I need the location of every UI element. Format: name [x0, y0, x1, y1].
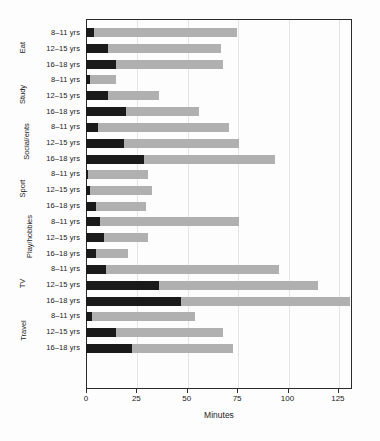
bar-row	[86, 170, 352, 179]
x-tick-mark	[237, 389, 238, 393]
bar-segment-dark	[86, 139, 124, 148]
bar-segment-dark	[86, 202, 96, 211]
age-group-label: 16–18 yrs	[24, 107, 80, 116]
bar-row	[86, 28, 352, 37]
bar-segment-light	[90, 75, 116, 84]
bar-row	[86, 265, 352, 274]
bar-row	[86, 107, 352, 116]
age-group-label: 16–18 yrs	[24, 60, 80, 69]
bar-row	[86, 297, 352, 306]
bar-row	[86, 249, 352, 258]
bar-segment-light	[108, 91, 158, 100]
age-group-label: 8–11 yrs	[24, 122, 80, 131]
bar-segment-dark	[86, 75, 90, 84]
bar-segment-light	[159, 281, 318, 290]
x-tick-mark	[187, 389, 188, 393]
bar-segment-dark	[86, 107, 126, 116]
x-axis: Minutes 0255075100125	[86, 389, 352, 429]
x-tick-label: 125	[331, 394, 344, 403]
bar-segment-light	[144, 155, 275, 164]
bar-segment-dark	[86, 44, 108, 53]
bar-segment-dark	[86, 60, 116, 69]
bar-segment-light	[94, 28, 237, 37]
bar-segment-light	[124, 139, 239, 148]
bar-segment-light	[96, 249, 128, 258]
bar-segment-dark	[86, 312, 92, 321]
bar-segment-light	[116, 60, 223, 69]
age-group-label: 8–11 yrs	[24, 28, 80, 37]
bar-row	[86, 312, 352, 321]
bar-segment-dark	[86, 170, 88, 179]
x-tick-mark	[86, 389, 87, 393]
bar-row	[86, 60, 352, 69]
bar-row	[86, 328, 352, 337]
x-tick-label: 0	[84, 394, 88, 403]
bar-segment-light	[116, 328, 223, 337]
age-group-label: 16–18 yrs	[24, 343, 80, 352]
age-group-label: 8–11 yrs	[24, 75, 80, 84]
bar-segment-dark	[86, 186, 90, 195]
bar-segment-light	[90, 186, 152, 195]
x-axis-title: Minutes	[86, 410, 352, 420]
bar-row	[86, 281, 352, 290]
bar-segment-light	[106, 265, 279, 274]
activity-group-label: Sport	[8, 184, 38, 193]
x-tick-label: 50	[182, 394, 191, 403]
bar-segment-dark	[86, 344, 132, 353]
bar-segment-dark	[86, 233, 104, 242]
x-tick-label: 75	[233, 394, 242, 403]
age-group-label: 8–11 yrs	[24, 169, 80, 178]
bar-segment-light	[98, 123, 229, 132]
bar-row	[86, 123, 352, 132]
bar-segment-dark	[86, 28, 94, 37]
activity-group-label: Play/hobbies	[8, 232, 38, 241]
bar-segment-light	[132, 344, 233, 353]
bar-row	[86, 186, 352, 195]
bar-row	[86, 139, 352, 148]
activity-group-label: TV	[8, 279, 38, 288]
bar-row	[86, 44, 352, 53]
bar-segment-dark	[86, 155, 144, 164]
stacked-bar-chart: 8–11 yrs12–15 yrs16–18 yrsEat8–11 yrs12–…	[0, 0, 380, 441]
bar-row	[86, 91, 352, 100]
bar-row	[86, 217, 352, 226]
bar-segment-light	[108, 44, 221, 53]
bar-segment-light	[181, 297, 350, 306]
bar-row	[86, 233, 352, 242]
bar-segment-light	[88, 170, 148, 179]
bars-layer	[86, 19, 352, 389]
bar-segment-dark	[86, 281, 159, 290]
x-tick-mark	[136, 389, 137, 393]
activity-group-label: Eat	[8, 43, 38, 52]
age-group-label: 16–18 yrs	[24, 154, 80, 163]
age-group-label: 16–18 yrs	[24, 296, 80, 305]
bar-segment-light	[96, 202, 146, 211]
bar-segment-dark	[86, 297, 181, 306]
bar-row	[86, 202, 352, 211]
age-group-label: 16–18 yrs	[24, 201, 80, 210]
bar-segment-light	[92, 312, 195, 321]
x-tick-label: 25	[132, 394, 141, 403]
bar-segment-light	[104, 233, 148, 242]
activity-group-label: Study	[8, 90, 38, 99]
bar-segment-dark	[86, 249, 96, 258]
bar-segment-dark	[86, 217, 100, 226]
y-axis-labels: 8–11 yrs12–15 yrs16–18 yrsEat8–11 yrs12–…	[0, 19, 86, 389]
bar-segment-dark	[86, 123, 98, 132]
bar-segment-dark	[86, 265, 106, 274]
bar-row	[86, 344, 352, 353]
bar-segment-light	[126, 107, 199, 116]
x-tick-mark	[288, 389, 289, 393]
bar-segment-light	[100, 217, 239, 226]
bar-row	[86, 155, 352, 164]
activity-group-label: Social/ents	[8, 137, 38, 146]
age-group-label: 8–11 yrs	[24, 264, 80, 273]
bar-segment-dark	[86, 328, 116, 337]
x-tick-mark	[338, 389, 339, 393]
bar-segment-dark	[86, 91, 108, 100]
age-group-label: 8–11 yrs	[24, 311, 80, 320]
x-tick-label: 100	[281, 394, 294, 403]
bar-row	[86, 75, 352, 84]
activity-group-label: Travel	[8, 326, 38, 335]
